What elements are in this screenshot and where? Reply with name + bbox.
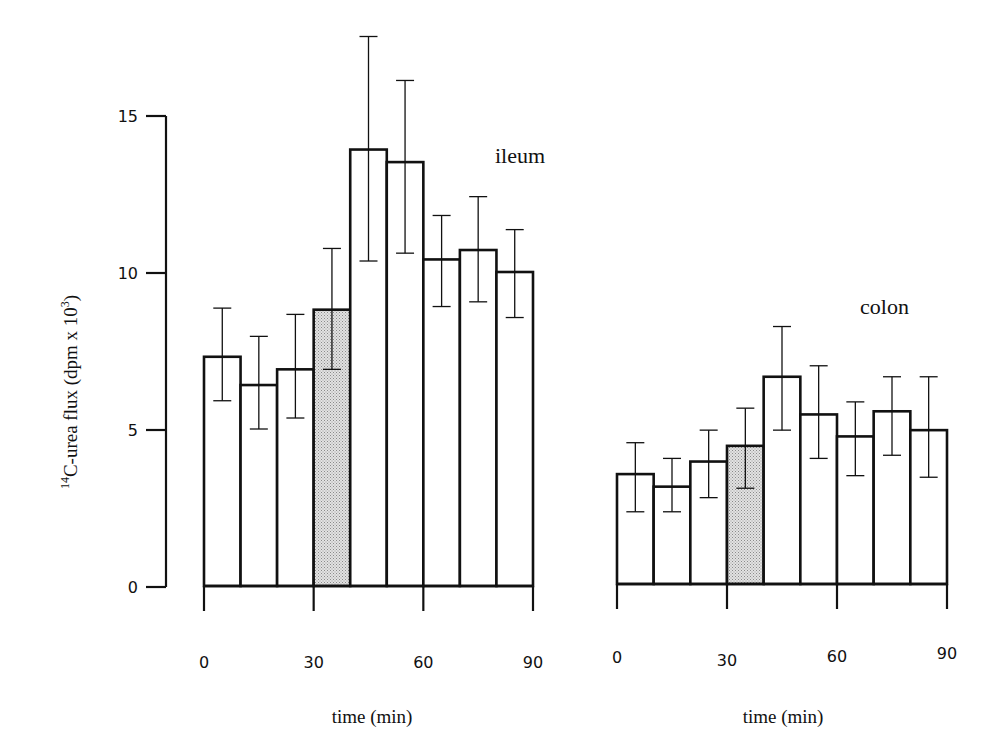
chart-canvas: 14C-urea flux (dpm x 103) 051015 0306090… (0, 0, 1003, 739)
x-tick-label: 30 (717, 651, 737, 670)
bar (690, 430, 727, 584)
bar (387, 80, 424, 586)
bar (423, 215, 460, 586)
ileum-bars (204, 37, 533, 587)
bar (910, 377, 947, 584)
bar (764, 327, 801, 584)
x-tick-label: 0 (199, 653, 209, 672)
x-tick-label: 0 (612, 648, 622, 667)
y-tick-label: 5 (128, 421, 138, 440)
figure-ileum-colon-urea-flux: 14C-urea flux (dpm x 103) 051015 0306090… (0, 0, 1003, 739)
bar (496, 230, 533, 586)
ileum-y-axis: 051015 (118, 107, 166, 597)
y-axis-title-superscript: 14 (58, 477, 72, 489)
x-tick-label: 90 (937, 644, 957, 663)
bar (314, 248, 351, 586)
bar (241, 336, 278, 586)
ileum-x-axis: 0306090 (199, 586, 543, 672)
y-tick-label: 15 (118, 107, 138, 126)
colon-bars (617, 327, 947, 584)
y-tick-label: 0 (128, 578, 138, 597)
bar (800, 366, 837, 584)
bar (874, 377, 911, 584)
y-tick-label: 10 (118, 264, 138, 283)
y-axis-title-main: C-urea flux (dpm x 10 (60, 307, 82, 477)
y-axis-title-close: ) (60, 295, 82, 301)
bar (204, 308, 241, 586)
bar (617, 443, 654, 584)
bar (727, 408, 764, 584)
x-tick-label: 90 (523, 653, 543, 672)
colon-panel-label: colon (860, 294, 909, 319)
colon-x-axis-title: time (min) (743, 706, 824, 728)
bar (837, 402, 874, 584)
ileum-x-axis-title: time (min) (332, 706, 413, 728)
ileum-panel: 051015 0306090 ileum time (min) (118, 37, 545, 729)
bar (350, 37, 387, 587)
x-tick-label: 60 (827, 647, 847, 666)
bar (277, 314, 314, 586)
x-tick-label: 30 (303, 653, 323, 672)
ileum-panel-label: ileum (495, 143, 545, 168)
bar (460, 197, 497, 586)
colon-panel: 0306090 colon time (min) (612, 294, 957, 728)
y-axis-title: 14C-urea flux (dpm x 103) (58, 295, 82, 489)
colon-x-axis: 0306090 (612, 584, 957, 670)
bar (654, 458, 691, 584)
x-tick-label: 60 (413, 653, 433, 672)
